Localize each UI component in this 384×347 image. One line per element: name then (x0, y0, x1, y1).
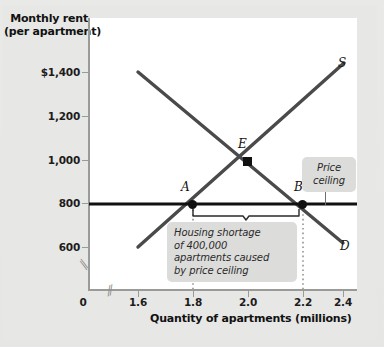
y-tick-1400 (82, 72, 89, 73)
price-ceiling-leader (325, 190, 326, 205)
y-axis-title: Monthly rent (per apartment) (4, 12, 88, 38)
housing-shortage-callout: Housing shortage of 400,000 apartments c… (167, 222, 297, 282)
housing-shortage-line-1: Housing shortage (174, 227, 290, 240)
price-ceiling-callout-line-1: Price (306, 162, 352, 175)
x-tick-label-2-4: 2.4 (323, 296, 363, 308)
y-tick-label-1200-wrap: 1,200 (0, 110, 80, 122)
y-tick-800 (82, 203, 89, 204)
y-tick-label-600-wrap: 600 (0, 241, 80, 253)
housing-shortage-line-4: by price ceiling (174, 265, 290, 278)
x-tick-label-2-2: 2.2 (283, 296, 323, 308)
x-axis (88, 289, 357, 291)
supply-curve-label: S (338, 56, 346, 70)
price-ceiling-callout-line-2: ceiling (306, 175, 352, 188)
y-tick-1200 (82, 116, 89, 117)
housing-shortage-line-2: of 400,000 (174, 240, 290, 253)
point-marker-e (243, 157, 252, 166)
point-label-e: E (238, 137, 247, 151)
y-tick-label-600: 600 (0, 241, 80, 253)
x-tick-label-2-0: 2.0 (228, 296, 268, 308)
y-tick-label-1200: 1,200 (0, 110, 80, 122)
price-ceiling-callout: Price ceiling (302, 157, 356, 192)
y-tick-label-800-wrap: 800 (0, 197, 80, 209)
y-tick-label-1000: 1,000 (0, 154, 80, 166)
y-tick-label-1400: $1,400 (0, 66, 80, 78)
y-axis-title-line-2: (per apartment) (4, 25, 88, 38)
y-axis-title-line-1: Monthly rent (4, 12, 88, 25)
y-tick-label-1000-wrap: 1,000 (0, 154, 80, 166)
origin-label: 0 (63, 296, 103, 308)
point-marker-a (188, 200, 197, 209)
y-tick-600 (82, 247, 89, 248)
y-tick-1000 (82, 160, 89, 161)
x-tick-label-1-6: 1.6 (118, 296, 158, 308)
housing-shortage-line-3: apartments caused (174, 252, 290, 265)
x-tick-label-1-8: 1.8 (173, 296, 213, 308)
y-tick-label-800: 800 (0, 197, 80, 209)
chart-figure: Monthly rent (per apartment) $1,400 1,20… (0, 0, 384, 347)
x-axis-title: Quantity of apartments (millions) (150, 312, 352, 325)
point-marker-b (298, 200, 307, 209)
y-axis (88, 18, 90, 290)
demand-curve-label: D (340, 239, 350, 253)
y-tick-label-1400-wrap: $1,400 (0, 66, 80, 78)
point-label-a: A (181, 180, 190, 194)
